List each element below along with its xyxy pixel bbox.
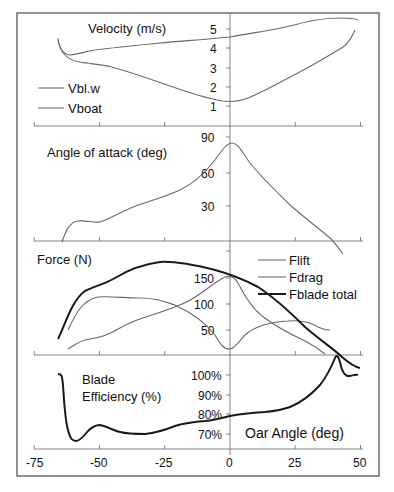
force-title: Force (N) — [37, 252, 92, 267]
efficiency-y-ticks: 100% 90% 80% 70% — [191, 369, 230, 442]
svg-text:150: 150 — [194, 272, 214, 286]
velocity-title: Velocity (m/s) — [88, 21, 166, 36]
x-tick-label: -75 — [26, 456, 44, 470]
x-tick-label: -50 — [90, 456, 108, 470]
svg-text:100%: 100% — [191, 369, 222, 383]
legend-label-vblw: Vbl.w — [68, 81, 100, 96]
force-panel: Force (N) 150 100 50 Flift Fdrag Fblade … — [37, 251, 360, 368]
vboat-line — [58, 30, 355, 102]
x-axis-tick-labels: -75 -50 -25 0 25 50 — [26, 456, 367, 470]
aoa-panel: Angle of attack (deg) 90 60 30 — [47, 131, 343, 254]
x-axis-title: Oar Angle (deg) — [245, 425, 344, 441]
rowing-blade-chart: Velocity (m/s) 5 4 3 2 1 Vbl.w Vboat Ang… — [0, 0, 394, 492]
legend-label-fdrag: Fdrag — [289, 270, 323, 285]
x-tick-label: 25 — [288, 456, 302, 470]
legend-label-flift: Flift — [289, 253, 310, 268]
velocity-legend: Vbl.w Vboat — [38, 81, 102, 116]
efficiency-title-line1: Blade — [82, 372, 115, 387]
aoa-title: Angle of attack (deg) — [47, 145, 167, 160]
svg-text:90: 90 — [201, 131, 215, 145]
aoa-y-ticks: 90 60 30 — [201, 131, 230, 214]
x-tick-label: -25 — [155, 456, 173, 470]
svg-text:100: 100 — [194, 298, 214, 312]
svg-text:3: 3 — [210, 62, 217, 76]
svg-text:2: 2 — [210, 81, 217, 95]
x-tick-label: 0 — [226, 456, 233, 470]
fdrag-line — [68, 276, 325, 354]
efficiency-title-line2: Efficiency (%) — [82, 389, 161, 404]
svg-text:5: 5 — [210, 23, 217, 37]
legend-label-fblade-total: Fblade total — [289, 287, 357, 302]
svg-text:4: 4 — [210, 42, 217, 56]
x-tick-label: 50 — [353, 456, 367, 470]
force-legend: Flift Fdrag Fblade total — [258, 253, 357, 302]
svg-text:50: 50 — [201, 324, 215, 338]
svg-text:70%: 70% — [198, 428, 222, 442]
legend-label-vboat: Vboat — [68, 101, 102, 116]
svg-text:1: 1 — [210, 100, 217, 114]
svg-text:90%: 90% — [198, 389, 222, 403]
velocity-panel: Velocity (m/s) 5 4 3 2 1 Vbl.w Vboat — [38, 18, 358, 116]
svg-text:30: 30 — [201, 200, 215, 214]
